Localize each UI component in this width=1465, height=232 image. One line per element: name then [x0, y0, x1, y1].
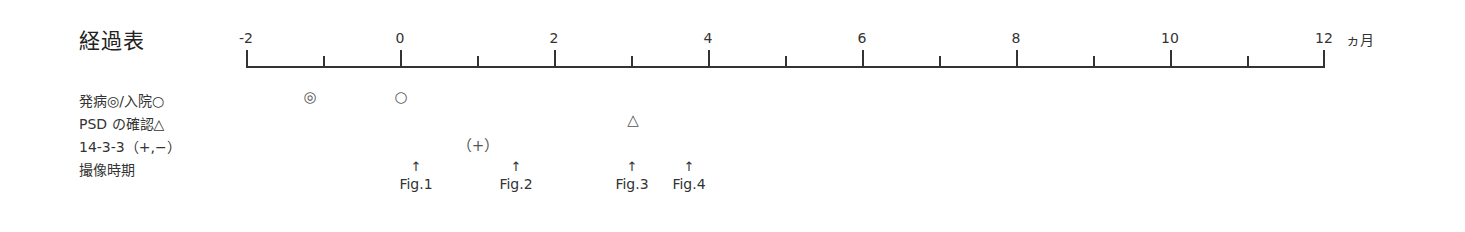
major-tick	[862, 50, 864, 68]
minor-tick	[1093, 56, 1095, 68]
axis-unit: ヵ月	[1346, 29, 1374, 49]
major-tick	[400, 50, 402, 68]
minor-tick	[323, 56, 325, 68]
row-label-imaging: 撮像時期	[79, 159, 135, 179]
14-3-3-positive-marker: （+）	[457, 134, 500, 155]
major-tick	[1170, 50, 1172, 68]
tick-label-10: 10	[1161, 30, 1179, 46]
admission-marker: ○	[394, 88, 407, 106]
imaging-fig3: ↑ Fig.3	[615, 160, 648, 192]
fig-label: Fig.2	[499, 176, 532, 192]
tick-label-6: 6	[858, 30, 867, 46]
up-arrow-icon: ↑	[672, 160, 705, 173]
tick-label-0: 0	[396, 30, 405, 46]
fig-label: Fig.4	[672, 176, 705, 192]
minor-tick	[939, 56, 941, 68]
tick-label-8: 8	[1012, 30, 1021, 46]
psd-marker: △	[627, 111, 639, 129]
imaging-fig4: ↑ Fig.4	[672, 160, 705, 192]
up-arrow-icon: ↑	[499, 160, 532, 173]
minor-tick	[1247, 56, 1249, 68]
major-tick	[1323, 50, 1325, 68]
major-tick	[708, 50, 710, 68]
tick-label-4: 4	[704, 30, 713, 46]
up-arrow-icon: ↑	[615, 160, 648, 173]
minor-tick	[477, 56, 479, 68]
minor-tick	[785, 56, 787, 68]
up-arrow-icon: ↑	[399, 160, 432, 173]
minor-tick	[631, 56, 633, 68]
row-label-14-3-3: 14-3-3（+,−）	[79, 136, 181, 156]
tick-label-2: 2	[550, 30, 559, 46]
major-tick	[246, 50, 248, 68]
row-label-onset-admission: 発病◎/入院○	[79, 90, 164, 110]
imaging-fig2: ↑ Fig.2	[499, 160, 532, 192]
fig-label: Fig.1	[399, 176, 432, 192]
major-tick	[554, 50, 556, 68]
fig-label: Fig.3	[615, 176, 648, 192]
tick-label-neg2: -2	[239, 30, 253, 46]
imaging-fig1: ↑ Fig.1	[399, 160, 432, 192]
row-label-psd: PSD の確認△	[79, 113, 164, 133]
onset-marker: ◎	[303, 88, 316, 106]
tick-label-12: 12	[1315, 30, 1333, 46]
major-tick	[1016, 50, 1018, 68]
chart-title: 経過表	[79, 24, 145, 54]
